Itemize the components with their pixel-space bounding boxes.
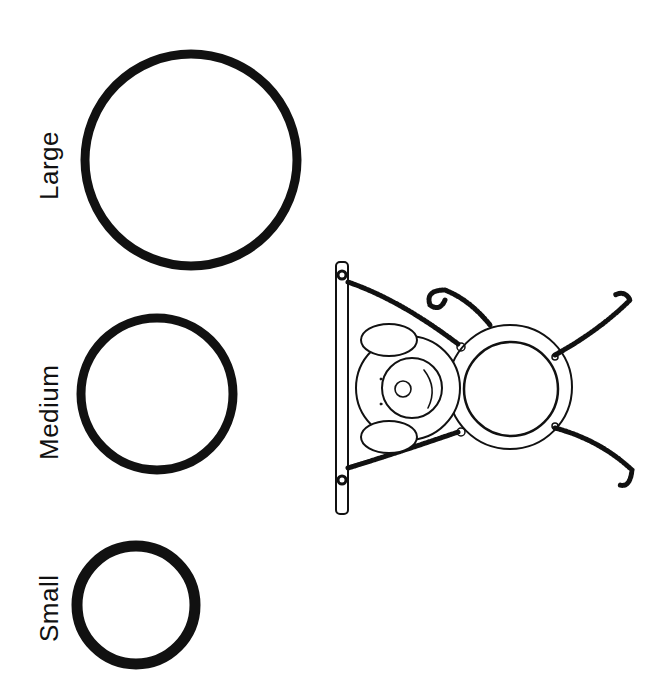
monkey-illustration	[336, 262, 632, 514]
worksheet-drawing	[0, 0, 671, 700]
large-circle	[85, 54, 297, 266]
small-circle	[77, 546, 195, 664]
medium-circle	[81, 318, 233, 470]
monkey-body	[448, 325, 572, 449]
